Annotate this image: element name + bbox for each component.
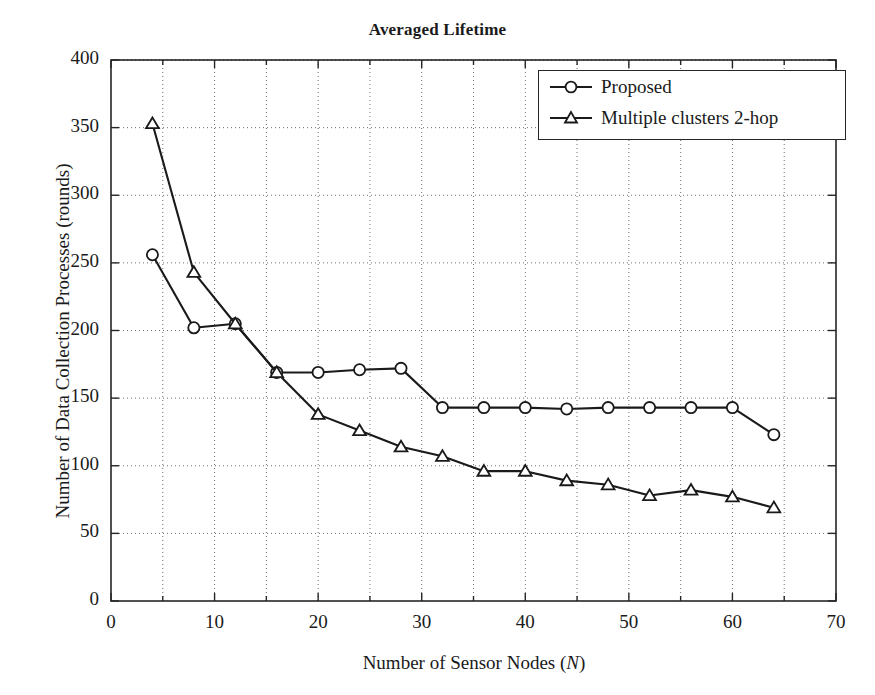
data-point xyxy=(685,484,698,495)
data-point xyxy=(727,402,738,413)
y-tick-label: 400 xyxy=(39,47,99,69)
x-tick-label: 60 xyxy=(702,611,762,633)
y-tick-label: 350 xyxy=(39,115,99,137)
y-tick-label: 300 xyxy=(39,182,99,204)
circle-marker-icon xyxy=(548,77,594,97)
data-point xyxy=(768,429,779,440)
data-point xyxy=(188,322,199,333)
x-tick-label: 20 xyxy=(288,611,348,633)
x-tick-label: 40 xyxy=(495,611,555,633)
y-tick-label: 50 xyxy=(39,520,99,542)
legend-item-1: Multiple clusters 2-hop xyxy=(539,102,845,133)
series-line-1 xyxy=(152,124,773,508)
x-axis-title: Number of Sensor Nodes (N) xyxy=(111,652,837,674)
data-point xyxy=(644,402,655,413)
y-tick-label: 250 xyxy=(39,250,99,272)
data-point xyxy=(561,403,572,414)
triangle-marker-icon xyxy=(548,108,594,128)
y-tick-label: 150 xyxy=(39,385,99,407)
data-point xyxy=(147,249,158,260)
legend-item-0: Proposed xyxy=(539,71,845,102)
legend-label: Multiple clusters 2-hop xyxy=(594,107,778,129)
x-tick-label: 30 xyxy=(392,611,452,633)
x-tick-label: 70 xyxy=(806,611,866,633)
grid-lines xyxy=(111,60,836,601)
data-point xyxy=(520,402,531,413)
data-point xyxy=(437,402,448,413)
legend: ProposedMultiple clusters 2-hop xyxy=(538,70,846,140)
x-tick-label: 50 xyxy=(599,611,659,633)
y-tick-label: 0 xyxy=(39,588,99,610)
data-point xyxy=(313,367,324,378)
data-point xyxy=(146,117,159,128)
y-tick-label: 100 xyxy=(39,453,99,475)
chart-figure: Averaged Lifetime Number of Data Collect… xyxy=(0,0,875,695)
data-point xyxy=(354,364,365,375)
data-point xyxy=(603,402,614,413)
data-point xyxy=(478,402,489,413)
x-tick-label: 0 xyxy=(81,611,141,633)
data-point xyxy=(395,363,406,374)
data-point xyxy=(685,402,696,413)
legend-label: Proposed xyxy=(594,76,672,98)
y-tick-label: 200 xyxy=(39,318,99,340)
data-point xyxy=(187,266,200,277)
data-series xyxy=(146,117,780,512)
x-tick-label: 10 xyxy=(185,611,245,633)
